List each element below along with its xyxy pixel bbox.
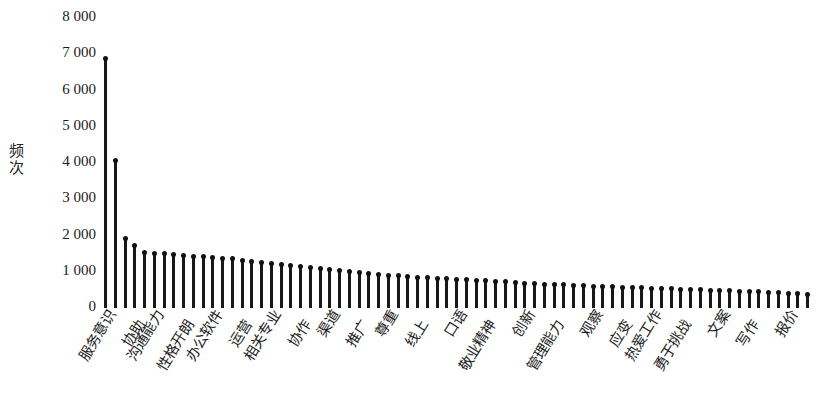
- bar: [358, 273, 361, 308]
- bar-cap-marker: [571, 283, 576, 288]
- bar-cap-marker: [142, 250, 147, 255]
- bar-cap-marker: [776, 290, 781, 295]
- bar-cap-marker: [220, 256, 225, 261]
- bar: [494, 282, 497, 308]
- x-axis-label: 报价: [773, 308, 801, 340]
- bar: [338, 271, 341, 308]
- y-tick-label: 2 000: [30, 227, 96, 242]
- bar-cap-marker: [201, 254, 206, 259]
- bar-cap-marker: [610, 284, 615, 289]
- bar-cap-marker: [396, 273, 401, 278]
- x-axis-label: 渠道: [315, 308, 343, 340]
- bar: [699, 290, 702, 308]
- y-tick-label: 6 000: [30, 82, 96, 97]
- bar: [748, 292, 751, 308]
- bar-cap-marker: [493, 279, 498, 284]
- bar: [397, 276, 400, 308]
- bar-cap-marker: [269, 261, 274, 266]
- x-axis-label: 口语: [442, 308, 470, 340]
- y-axis-title: 频 次: [2, 143, 30, 177]
- bar: [163, 254, 166, 308]
- bar: [543, 285, 546, 308]
- bar: [660, 289, 663, 308]
- x-axis-label: 创新: [510, 308, 538, 340]
- bar-cap-marker: [513, 280, 518, 285]
- bar: [211, 258, 214, 308]
- bar-cap-marker: [639, 285, 644, 290]
- bar: [143, 253, 146, 308]
- bar: [241, 261, 244, 308]
- y-tick-label: 4 000: [30, 154, 96, 169]
- bar: [133, 246, 136, 308]
- bar-cap-marker: [464, 277, 469, 282]
- bar: [650, 289, 653, 308]
- bar: [348, 272, 351, 308]
- bar: [221, 259, 224, 308]
- bar: [124, 239, 127, 308]
- bar: [377, 275, 380, 308]
- bar-cap-marker: [600, 284, 605, 289]
- bar: [475, 281, 478, 308]
- bar-cap-marker: [756, 289, 761, 294]
- bar-cap-marker: [279, 262, 284, 267]
- bar: [582, 286, 585, 308]
- bar-cap-marker: [308, 265, 313, 270]
- bar: [309, 268, 312, 308]
- bar-cap-marker: [318, 266, 323, 271]
- bar-cap-marker: [552, 282, 557, 287]
- bar: [553, 285, 556, 308]
- bar-cap-marker: [298, 264, 303, 269]
- bar-cap-marker: [649, 286, 654, 291]
- bar: [182, 256, 185, 308]
- bar-cap-marker: [249, 259, 254, 264]
- bar: [416, 278, 419, 308]
- bar-cap-marker: [503, 279, 508, 284]
- plot-area: [100, 0, 815, 308]
- bar: [114, 161, 117, 308]
- bar-cap-marker: [152, 251, 157, 256]
- bar-cap-marker: [795, 291, 800, 296]
- bar: [728, 291, 731, 308]
- bar-cap-marker: [240, 258, 245, 263]
- bar-cap-marker: [288, 263, 293, 268]
- bar-cap-marker: [717, 288, 722, 293]
- bar-cap-marker: [561, 282, 566, 287]
- bar-cap-marker: [737, 289, 742, 294]
- bar: [670, 289, 673, 308]
- bar-cap-marker: [698, 287, 703, 292]
- bar: [436, 279, 439, 308]
- bar: [631, 288, 634, 308]
- bar: [592, 287, 595, 308]
- bar-cap-marker: [688, 287, 693, 292]
- bar: [718, 291, 721, 308]
- bar-cap-marker: [415, 275, 420, 280]
- bar-cap-marker: [210, 255, 215, 260]
- bar-cap-marker: [474, 278, 479, 283]
- bar: [260, 263, 263, 308]
- bar-cap-marker: [123, 236, 128, 241]
- bar: [796, 294, 799, 308]
- bar: [202, 257, 205, 308]
- bar-cap-marker: [444, 276, 449, 281]
- bar-cap-marker: [747, 289, 752, 294]
- bar-cap-marker: [659, 286, 664, 291]
- bar-cap-marker: [132, 243, 137, 248]
- y-tick-label: 7 000: [30, 45, 96, 60]
- bar: [523, 284, 526, 308]
- bar: [104, 59, 107, 308]
- bar-cap-marker: [522, 281, 527, 286]
- bar-cap-marker: [386, 273, 391, 278]
- bar: [757, 293, 760, 309]
- bar-cap-marker: [191, 254, 196, 259]
- bar: [328, 270, 331, 308]
- bar: [367, 274, 370, 308]
- bar: [738, 292, 741, 308]
- bar-cap-marker: [435, 276, 440, 281]
- bar: [533, 284, 536, 308]
- bar-cap-marker: [581, 283, 586, 288]
- bar: [787, 294, 790, 308]
- bar-cap-marker: [454, 277, 459, 282]
- bar: [611, 287, 614, 308]
- y-axis-title-char-2: 次: [2, 160, 30, 177]
- bar: [621, 288, 624, 308]
